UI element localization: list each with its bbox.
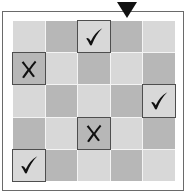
board-cell-r0-c2[interactable] — [77, 20, 111, 53]
board-cell-r1-c1[interactable] — [46, 53, 78, 84]
board-cell-r3-c0[interactable] — [13, 118, 45, 149]
board-cell-r1-c3[interactable] — [111, 53, 143, 84]
check-icon — [18, 154, 40, 176]
board-cell-r2-c1[interactable] — [46, 85, 78, 116]
board-cell-r1-c4[interactable] — [143, 53, 175, 84]
check-icon — [148, 90, 170, 112]
board-cell-r3-c1[interactable] — [46, 118, 78, 149]
board-cell-r2-c3[interactable] — [111, 85, 143, 116]
column-marker-triangle-icon — [117, 2, 137, 18]
board-cell-r4-c2[interactable] — [78, 150, 110, 181]
board-cell-r4-c1[interactable] — [46, 150, 78, 181]
cross-icon — [83, 122, 105, 144]
board-cell-r2-c0[interactable] — [13, 85, 45, 116]
check-icon — [83, 26, 105, 48]
board-cell-r3-c4[interactable] — [143, 118, 175, 149]
board-cell-r4-c3[interactable] — [111, 150, 143, 181]
board-cell-r3-c3[interactable] — [111, 118, 143, 149]
board-cell-r2-c4[interactable] — [142, 84, 176, 117]
board-cell-r2-c2[interactable] — [78, 85, 110, 116]
board-cell-r0-c1[interactable] — [46, 21, 78, 52]
board-cell-r0-c3[interactable] — [111, 21, 143, 52]
board-cell-r4-c0[interactable] — [12, 149, 46, 182]
board-cell-r1-c0[interactable] — [12, 52, 46, 85]
board-cell-r1-c2[interactable] — [78, 53, 110, 84]
board-cell-r3-c2[interactable] — [77, 117, 111, 150]
cross-icon — [18, 58, 40, 80]
board-cell-r0-c4[interactable] — [143, 21, 175, 52]
board-cell-r0-c0[interactable] — [13, 21, 45, 52]
board-cell-r4-c4[interactable] — [143, 150, 175, 181]
game-board — [13, 21, 175, 181]
